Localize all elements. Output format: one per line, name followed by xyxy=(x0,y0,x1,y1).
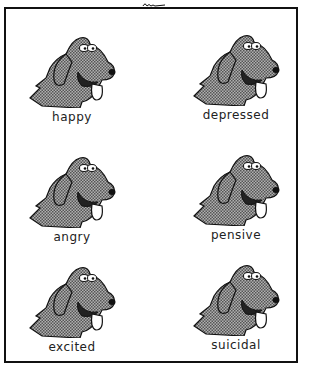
emotion-label: suicidal xyxy=(186,338,286,352)
artist-signature xyxy=(142,1,166,9)
emotion-label: angry xyxy=(22,230,122,244)
dog-face-icon xyxy=(186,146,286,226)
emotion-label: depressed xyxy=(186,108,286,122)
panel-excited: excited xyxy=(22,258,122,363)
panel-happy: happy xyxy=(22,28,122,133)
panel-angry: angry xyxy=(22,148,122,253)
panel-depressed: depressed xyxy=(186,26,286,131)
emotion-label: pensive xyxy=(186,228,286,242)
panel-pensive: pensive xyxy=(186,146,286,251)
dog-face-icon xyxy=(22,258,122,338)
dog-face-icon xyxy=(22,28,122,108)
dog-face-icon xyxy=(186,26,286,106)
emotion-label: excited xyxy=(22,340,122,354)
dog-face-icon xyxy=(186,256,286,336)
emotion-label: happy xyxy=(22,110,122,124)
panel-suicidal: suicidal xyxy=(186,256,286,361)
dog-face-icon xyxy=(22,148,122,228)
